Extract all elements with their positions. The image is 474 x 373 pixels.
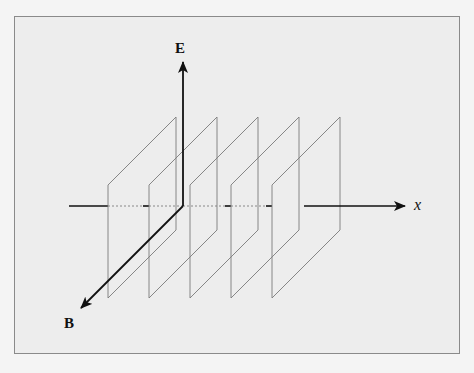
- b-field-label: B: [64, 316, 74, 331]
- wave-plane-4: [231, 117, 299, 298]
- b-axis-arrow: [81, 206, 183, 308]
- wave-plane-5: [272, 117, 340, 298]
- e-field-label: E: [175, 41, 185, 56]
- wave-plane-3: [190, 117, 258, 298]
- x-axis-label: x: [414, 197, 421, 213]
- wave-fronts: [108, 117, 340, 298]
